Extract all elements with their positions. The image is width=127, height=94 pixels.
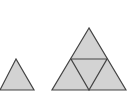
small-triangle <box>0 59 34 90</box>
triangle-diagram <box>0 0 127 94</box>
